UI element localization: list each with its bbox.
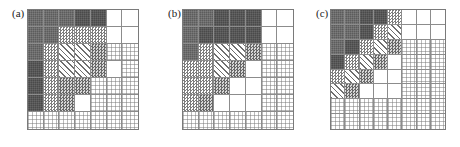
matrix-cell bbox=[331, 114, 345, 129]
matrix-cell bbox=[345, 25, 359, 40]
matrix-cell bbox=[277, 27, 293, 44]
matrix-cell bbox=[28, 44, 44, 61]
matrix-cell bbox=[28, 61, 44, 78]
matrix-cell bbox=[230, 61, 246, 78]
matrix-cell bbox=[360, 55, 374, 70]
matrix-cell bbox=[214, 61, 230, 78]
matrix-cell bbox=[183, 95, 199, 112]
matrix-cell bbox=[122, 112, 138, 129]
matrix-cell bbox=[44, 95, 60, 112]
matrix-cell bbox=[246, 10, 262, 27]
matrix-cell bbox=[75, 112, 91, 129]
matrix-cell bbox=[183, 61, 199, 78]
matrix-cell bbox=[388, 114, 402, 129]
matrix-cell bbox=[28, 78, 44, 95]
matrix-cell bbox=[107, 61, 123, 78]
matrix-cell bbox=[402, 114, 416, 129]
matrix-cell bbox=[345, 55, 359, 70]
matrix-cell bbox=[199, 27, 215, 44]
matrix-cell bbox=[59, 95, 75, 112]
matrix-cell bbox=[277, 10, 293, 27]
matrix-cell bbox=[75, 61, 91, 78]
matrix-cell bbox=[59, 10, 75, 27]
matrix-cell bbox=[107, 95, 123, 112]
matrix-cell bbox=[122, 61, 138, 78]
matrix-cell bbox=[246, 61, 262, 78]
matrix-cell bbox=[345, 40, 359, 55]
matrix-cell bbox=[331, 84, 345, 99]
matrix-cell bbox=[214, 27, 230, 44]
matrix-cell bbox=[331, 10, 345, 25]
matrix-cell bbox=[345, 84, 359, 99]
matrix-cell bbox=[214, 95, 230, 112]
matrix-cell bbox=[246, 44, 262, 61]
matrix-cell bbox=[28, 10, 44, 27]
matrix-cell bbox=[277, 78, 293, 95]
matrix-cell bbox=[122, 10, 138, 27]
matrix-cell bbox=[417, 99, 431, 114]
matrix-cell bbox=[91, 78, 107, 95]
matrix-cell bbox=[402, 10, 416, 25]
matrix-cell bbox=[402, 84, 416, 99]
matrix-cell bbox=[44, 112, 60, 129]
matrix-cell bbox=[91, 44, 107, 61]
matrix-cell bbox=[431, 70, 445, 85]
matrix-cell bbox=[388, 40, 402, 55]
matrix-cell bbox=[431, 10, 445, 25]
matrix-cell bbox=[431, 55, 445, 70]
matrix-cell bbox=[246, 27, 262, 44]
matrix-cell bbox=[183, 112, 199, 129]
matrix-cell bbox=[360, 70, 374, 85]
matrix-cell bbox=[214, 44, 230, 61]
matrix-cell bbox=[262, 61, 278, 78]
matrix-cell bbox=[374, 55, 388, 70]
matrix-cell bbox=[262, 95, 278, 112]
matrix-cell bbox=[91, 95, 107, 112]
matrix-cell bbox=[246, 112, 262, 129]
matrix-cell bbox=[199, 44, 215, 61]
matrix-cell bbox=[183, 10, 199, 27]
matrix-cell bbox=[199, 95, 215, 112]
panel-c-grid bbox=[330, 9, 446, 130]
matrix-cell bbox=[230, 95, 246, 112]
matrix-cell bbox=[374, 114, 388, 129]
matrix-cell bbox=[183, 44, 199, 61]
matrix-cell bbox=[431, 40, 445, 55]
matrix-cell bbox=[183, 78, 199, 95]
matrix-cell bbox=[431, 114, 445, 129]
matrix-cell bbox=[262, 27, 278, 44]
matrix-cell bbox=[75, 95, 91, 112]
matrix-cell bbox=[345, 99, 359, 114]
panel-a-grid bbox=[27, 9, 139, 130]
matrix-cell bbox=[59, 61, 75, 78]
figure-container: (a) (b) (c) bbox=[0, 0, 460, 147]
matrix-cell bbox=[431, 25, 445, 40]
matrix-cell bbox=[388, 70, 402, 85]
matrix-cell bbox=[277, 112, 293, 129]
matrix-cell bbox=[417, 70, 431, 85]
matrix-cell bbox=[75, 27, 91, 44]
matrix-cell bbox=[59, 78, 75, 95]
matrix-cell bbox=[345, 10, 359, 25]
matrix-cell bbox=[360, 99, 374, 114]
matrix-cell bbox=[214, 112, 230, 129]
panel-b-grid bbox=[182, 9, 294, 130]
matrix-cell bbox=[262, 44, 278, 61]
matrix-cell bbox=[214, 10, 230, 27]
matrix-cell bbox=[431, 99, 445, 114]
matrix-cell bbox=[199, 10, 215, 27]
matrix-cell bbox=[331, 70, 345, 85]
matrix-cell bbox=[28, 112, 44, 129]
matrix-cell bbox=[417, 84, 431, 99]
matrix-cell bbox=[277, 61, 293, 78]
matrix-cell bbox=[91, 61, 107, 78]
matrix-cell bbox=[214, 78, 230, 95]
matrix-cell bbox=[402, 25, 416, 40]
matrix-cell bbox=[374, 70, 388, 85]
matrix-cell bbox=[331, 99, 345, 114]
matrix-cell bbox=[91, 10, 107, 27]
matrix-cell bbox=[402, 70, 416, 85]
matrix-cell bbox=[262, 78, 278, 95]
matrix-cell bbox=[230, 44, 246, 61]
matrix-cell bbox=[230, 112, 246, 129]
